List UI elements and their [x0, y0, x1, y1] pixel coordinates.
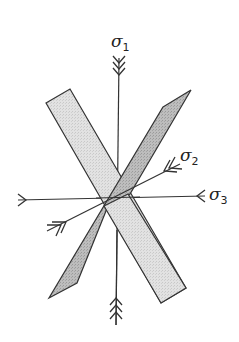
sigma1-label: σ1 [111, 31, 130, 54]
sigma1-axis-lower [116, 230, 117, 325]
stress-fracture-diagram: σ1 σ2 σ3 [0, 0, 239, 342]
sigma2-label: σ2 [180, 145, 199, 168]
sigma3-label: σ3 [209, 184, 228, 207]
